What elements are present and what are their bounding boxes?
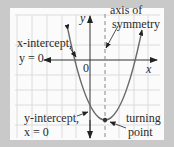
axis-of-symmetry-label-line1: axis of bbox=[110, 4, 142, 16]
turning-point-label-line2: point bbox=[128, 126, 153, 138]
y-axis-label: y bbox=[80, 12, 85, 24]
turning-point-label-line1: turning bbox=[126, 112, 161, 124]
x-intercept-label-line2: y = 0 bbox=[19, 52, 44, 64]
x-intercept-label-line1: x-intercept, bbox=[17, 37, 72, 49]
axis-of-symmetry-label-line2: symmetry bbox=[112, 18, 160, 30]
turning-point-dot bbox=[103, 118, 107, 122]
origin-label: 0 bbox=[83, 62, 89, 74]
y-intercept-label-line1: y-intercept, bbox=[24, 112, 79, 124]
x-axis-label: x bbox=[146, 63, 151, 75]
y-intercept-label-line2: x = 0 bbox=[24, 126, 49, 138]
